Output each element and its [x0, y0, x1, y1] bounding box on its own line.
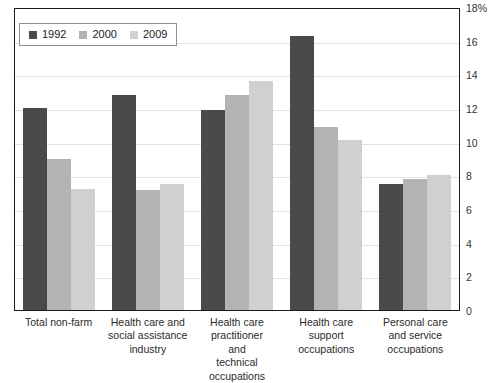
bar-2009	[249, 81, 273, 310]
y-tick-label: 2	[466, 272, 472, 283]
bar-1992	[379, 184, 403, 310]
x-axis-label: Total non-farm	[17, 316, 101, 383]
legend-swatch-icon	[29, 31, 37, 39]
y-tick-label: 18%	[466, 3, 487, 14]
y-tick-label: 0	[466, 306, 472, 317]
y-tick-label: 6	[466, 205, 472, 216]
bar-1992	[23, 108, 47, 310]
legend-item: 1992	[29, 29, 66, 40]
bar-group	[290, 9, 362, 310]
legend-swatch-icon	[79, 31, 87, 39]
y-axis: 18%1614121086420	[462, 8, 498, 311]
y-tick-label: 16	[466, 37, 478, 48]
bar-2000	[136, 190, 160, 310]
bar-2000	[314, 127, 338, 310]
legend-label: 2000	[92, 29, 116, 40]
bar-2009	[338, 140, 362, 310]
y-tick-label: 14	[466, 70, 478, 81]
bar-2009	[160, 184, 184, 310]
bar-group	[23, 9, 95, 310]
legend-item: 2009	[130, 29, 167, 40]
x-axis-label: Health caresupportoccupations	[284, 316, 368, 383]
bar-2009	[427, 175, 451, 310]
bar-1992	[290, 36, 314, 310]
bar-group	[379, 9, 451, 310]
bar-2000	[403, 179, 427, 310]
x-axis: Total non-farmHealth care andsocial assi…	[14, 316, 460, 383]
bar-2000	[47, 159, 71, 311]
plot-area	[14, 8, 460, 311]
chart-legend: 199220002009	[19, 23, 177, 46]
y-tick-label: 8	[466, 171, 472, 182]
legend-item: 2000	[79, 29, 116, 40]
legend-label: 2009	[143, 29, 167, 40]
legend-swatch-icon	[130, 31, 138, 39]
bar-2009	[71, 189, 95, 310]
bars-layer	[15, 9, 459, 310]
bar-1992	[201, 110, 225, 310]
x-axis-label: Health carepractitionerandtechnicaloccup…	[195, 316, 279, 383]
bar-group	[201, 9, 273, 310]
bar-group	[112, 9, 184, 310]
y-tick-label: 12	[466, 104, 478, 115]
y-tick-label: 4	[466, 239, 472, 250]
bar-2000	[225, 95, 249, 310]
x-axis-label: Personal careand serviceoccupations	[373, 316, 457, 383]
legend-label: 1992	[42, 29, 66, 40]
x-axis-label: Health care andsocial assistanceindustry	[106, 316, 190, 383]
y-tick-label: 10	[466, 138, 478, 149]
bar-1992	[112, 95, 136, 310]
